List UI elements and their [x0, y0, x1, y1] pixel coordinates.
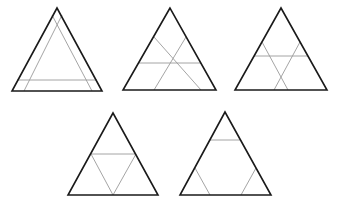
inner-line	[113, 154, 136, 195]
inner-line	[91, 154, 113, 195]
outer-triangle	[123, 8, 216, 90]
triangle-5	[180, 112, 271, 195]
triangle-4	[68, 113, 158, 195]
outer-triangle	[180, 112, 271, 195]
inner-line	[241, 168, 256, 195]
outer-triangle	[12, 8, 102, 91]
inner-line	[262, 42, 288, 90]
triangle-3	[235, 8, 327, 90]
triangle-diagram	[0, 0, 341, 207]
inner-line	[154, 37, 201, 90]
inner-line	[274, 42, 300, 90]
triangle-2	[123, 8, 216, 90]
triangle-figure	[0, 0, 341, 207]
inner-line	[154, 37, 186, 90]
inner-line	[195, 168, 210, 195]
triangle-1	[12, 8, 102, 91]
